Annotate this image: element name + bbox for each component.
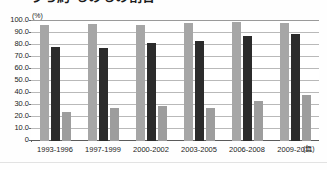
bar-group [31, 20, 79, 141]
bar-group [175, 20, 223, 141]
bar-series-1-2009-2011[interactable] [280, 23, 289, 141]
x-axis-tick-label: 1993-1996 [31, 145, 79, 159]
x-axis-tick-labels: 1993-19961997-19992000-20022003-20052006… [31, 145, 319, 159]
chart-title-text: うち約 ものもの割合 [30, 0, 230, 4]
bar-series-2-1997-1999[interactable] [99, 48, 108, 141]
bar-group [223, 20, 271, 141]
bar-series-3-2000-2002[interactable] [158, 106, 167, 141]
y-axis-unit-label: (%) [32, 12, 43, 19]
bar-series-1-2003-2005[interactable] [184, 23, 193, 141]
bar-group [127, 20, 175, 141]
bar-series-2-2003-2005[interactable] [195, 41, 204, 141]
bar-series-1-2000-2002[interactable] [136, 25, 145, 141]
bar-series-3-2009-2011[interactable] [302, 95, 311, 141]
x-axis-tick-label: 2000-2002 [127, 145, 175, 159]
bar-series-3-1997-1999[interactable] [110, 108, 119, 141]
x-axis-tick-label: 2003-2005 [175, 145, 223, 159]
bottom-rule [0, 162, 327, 163]
bar-group [79, 20, 127, 141]
bar-series-1-1997-1999[interactable] [88, 24, 97, 141]
bar-series-1-2006-2008[interactable] [232, 22, 241, 141]
chart-title-clipped: うち約 ものもの割合 [30, 0, 230, 4]
bar-series-3-2006-2008[interactable] [254, 101, 263, 141]
x-axis-unit-label: (年) [303, 143, 315, 153]
bar-group [271, 20, 319, 141]
bar-groups [31, 20, 319, 141]
bar-series-2-2006-2008[interactable] [243, 36, 252, 141]
x-axis-tick-label: 1997-1999 [79, 145, 127, 159]
bar-series-2-1993-1996[interactable] [51, 47, 60, 141]
x-axis-tick-label: 2006-2008 [223, 145, 271, 159]
bar-series-3-1993-1996[interactable] [62, 112, 71, 141]
bar-series-2-2009-2011[interactable] [291, 34, 300, 141]
bar-series-1-1993-1996[interactable] [40, 25, 49, 141]
chart-figure: うち約 ものもの割合 (%) 100.090.080.070.060.050.0… [0, 0, 327, 170]
bar-series-3-2003-2005[interactable] [206, 108, 215, 141]
plot-area [31, 20, 319, 141]
bar-series-2-2000-2002[interactable] [147, 43, 156, 141]
y-axis-tick-marks [0, 20, 33, 141]
